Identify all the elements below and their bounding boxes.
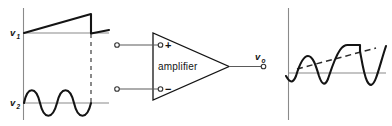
figure-root: v 1 v 2 + − amplifier bbox=[0, 0, 392, 126]
amplifier-symbol: + − amplifier v o bbox=[115, 33, 266, 100]
amplifier-waveform-diagram: v 1 v 2 + − amplifier bbox=[0, 0, 392, 126]
minus-sign-label: − bbox=[165, 83, 171, 95]
v1-sawtooth-trace bbox=[24, 14, 109, 34]
v1-label-var: v bbox=[10, 27, 16, 38]
v2-label: v 2 bbox=[10, 97, 21, 110]
input-waveform-panel: v 1 v 2 bbox=[10, 8, 109, 120]
noninverting-node-circle[interactable] bbox=[158, 43, 163, 48]
v1-label: v 1 bbox=[10, 27, 21, 40]
output-terminal[interactable] bbox=[261, 64, 266, 69]
v2-label-var: v bbox=[10, 97, 16, 108]
v1-label-subscript: 1 bbox=[17, 33, 21, 40]
noninverting-input-terminal[interactable] bbox=[115, 43, 120, 48]
inverting-input-terminal[interactable] bbox=[115, 87, 120, 92]
output-waveform-panel bbox=[286, 8, 386, 120]
v2-label-subscript: 2 bbox=[16, 103, 21, 110]
amplifier-body-label: amplifier bbox=[158, 61, 198, 72]
inverting-node-circle[interactable] bbox=[158, 87, 163, 92]
vo-label: v o bbox=[255, 51, 266, 64]
vo-clipped-output-trace bbox=[286, 45, 386, 85]
vo-label-subscript: o bbox=[262, 57, 266, 64]
plus-sign-label: + bbox=[165, 39, 171, 51]
vo-label-var: v bbox=[255, 51, 261, 62]
